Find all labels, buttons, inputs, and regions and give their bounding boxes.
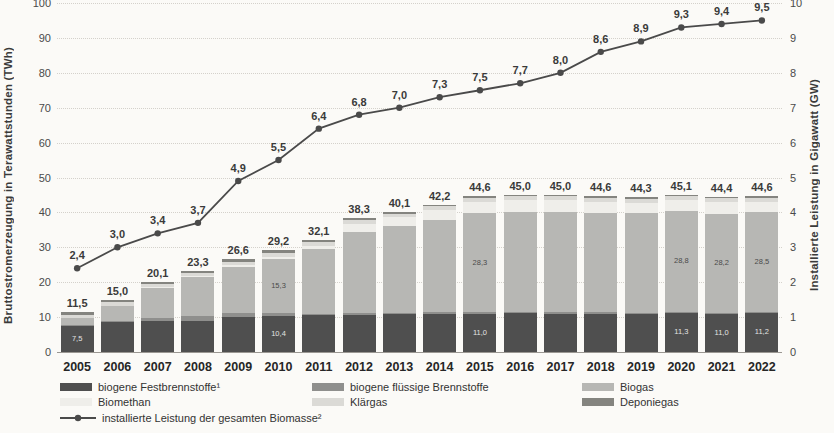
capacity-value-label: 3,7 — [181, 204, 215, 216]
bar-segment-biomethan — [584, 202, 617, 213]
axis-tick-label-right: 1 — [790, 311, 810, 323]
bar-segment-biomethan — [544, 200, 577, 212]
bar-segment-klaergas — [101, 302, 134, 305]
x-axis-year-label: 2009 — [216, 360, 260, 374]
bar-segment-biomethan — [222, 265, 255, 267]
bar-total-label: 45,1 — [659, 180, 703, 192]
x-axis-year-label: 2007 — [136, 360, 180, 374]
bar-segment-klaergas — [584, 198, 617, 202]
x-axis-year-label: 2021 — [700, 360, 744, 374]
bar-total-label: 20,1 — [136, 267, 180, 279]
bar-total-label: 44,6 — [579, 181, 623, 193]
bar-total-label: 38,3 — [337, 203, 381, 215]
capacity-line-marker — [477, 87, 483, 93]
bar-segment-deponiegas — [383, 212, 416, 214]
legend-label: biogene flüssige Brennstoffe — [350, 381, 489, 393]
capacity-line-marker — [718, 21, 724, 27]
capacity-value-label: 7,7 — [503, 64, 537, 76]
x-axis-year-label: 2005 — [55, 360, 99, 374]
y-axis-title-right: Installierte Leistung in Gigawatt (GW) — [808, 10, 820, 360]
axis-tick-label-left: 100 — [21, 0, 51, 9]
bar-segment-fluessige — [222, 313, 255, 317]
bar-segment-klaergas — [61, 315, 94, 318]
capacity-value-label: 8,0 — [543, 54, 577, 66]
bar-segment-deponiegas — [222, 259, 255, 261]
bar-segment-biogas — [141, 288, 174, 318]
bar-segment-deponiegas — [302, 240, 335, 242]
segment-value-festbrennstoffe: 11,0 — [463, 329, 497, 337]
segment-value-festbrennstoffe: 11,0 — [705, 329, 739, 337]
axis-tick-label-right: 7 — [790, 102, 810, 114]
bar-total-label: 45,0 — [498, 180, 542, 192]
capacity-value-label: 7,5 — [463, 71, 497, 83]
capacity-line-marker — [356, 111, 362, 117]
legend-label: Klärgas — [350, 396, 387, 408]
bar-segment-festbrennstoffe — [423, 314, 456, 352]
x-axis-year-label: 2014 — [418, 360, 462, 374]
bar-total-label: 45,0 — [538, 180, 582, 192]
bar-segment-biomethan — [745, 202, 778, 213]
bar-segment-deponiegas — [745, 196, 778, 197]
capacity-value-label: 3,4 — [141, 214, 175, 226]
axis-tick-label-right: 4 — [790, 206, 810, 218]
bar-segment-klaergas — [665, 196, 698, 200]
bar-segment-biomethan — [262, 257, 295, 259]
bar-segment-klaergas — [262, 253, 295, 257]
axis-tick-label-left: 20 — [21, 276, 51, 288]
segment-value-biogas: 28,2 — [705, 259, 739, 267]
axis-tick-label-right: 5 — [790, 172, 810, 184]
capacity-value-label: 9,4 — [705, 5, 739, 17]
bar-segment-fluessige — [181, 316, 214, 320]
capacity-line-marker — [235, 178, 241, 184]
axis-tick-label-left: 30 — [21, 241, 51, 253]
axis-tick-label-right: 9 — [790, 32, 810, 44]
axis-tick-label-left: 80 — [21, 67, 51, 79]
axis-tick-label-right: 8 — [790, 67, 810, 79]
bar-segment-fluessige — [423, 312, 456, 313]
bar-segment-biogas — [584, 213, 617, 312]
bar-segment-fluessige — [302, 314, 335, 316]
bar-segment-festbrennstoffe — [343, 315, 376, 352]
legend-label: Biomethan — [98, 396, 151, 408]
x-axis-line — [57, 352, 782, 353]
bar-segment-biogas — [101, 306, 134, 321]
gridline — [57, 178, 782, 179]
bar-segment-biomethan — [463, 202, 496, 214]
legend-label: Biogas — [620, 381, 654, 393]
bar-segment-deponiegas — [262, 250, 295, 253]
capacity-line-marker — [598, 49, 604, 55]
legend-label: biogene Festbrennstoffe¹ — [98, 381, 220, 393]
capacity-value-label: 6,4 — [302, 110, 336, 122]
biomass-electricity-chart: Bruttostromerzeugung in Terawattstunden … — [0, 0, 834, 433]
axis-tick-label-right: 10 — [790, 0, 810, 9]
legend-swatch — [312, 398, 344, 406]
x-axis-year-label: 2010 — [257, 360, 301, 374]
bar-segment-biogas — [222, 267, 255, 313]
bar-segment-klaergas — [141, 284, 174, 287]
x-axis-year-label: 2016 — [498, 360, 542, 374]
x-axis-year-label: 2015 — [458, 360, 502, 374]
axis-tick-label-right: 6 — [790, 137, 810, 149]
bar-segment-fluessige — [262, 313, 295, 316]
segment-value-festbrennstoffe: 11,2 — [745, 328, 779, 336]
legend-swatch — [312, 383, 344, 391]
bar-segment-fluessige — [383, 313, 416, 314]
segment-value-festbrennstoffe: 10,4 — [262, 330, 296, 338]
bar-segment-festbrennstoffe — [383, 314, 416, 352]
bar-total-label: 44,6 — [740, 181, 784, 193]
legend-item: Klärgas — [312, 396, 387, 408]
bar-segment-klaergas — [383, 214, 416, 217]
bar-segment-klaergas — [423, 206, 456, 209]
bar-segment-fluessige — [463, 312, 496, 313]
bar-segment-biogas — [383, 226, 416, 313]
segment-value-festbrennstoffe: 11,3 — [664, 328, 698, 336]
x-axis-year-label: 2017 — [538, 360, 582, 374]
axis-tick-label-left: 70 — [21, 102, 51, 114]
axis-tick-label-right: 3 — [790, 241, 810, 253]
bar-segment-biogas — [544, 212, 577, 313]
bar-segment-festbrennstoffe — [625, 314, 658, 352]
capacity-line-marker — [74, 265, 80, 271]
x-axis-year-label: 2018 — [579, 360, 623, 374]
bar-segment-fluessige — [61, 325, 94, 326]
axis-tick-label-left: 40 — [21, 206, 51, 218]
